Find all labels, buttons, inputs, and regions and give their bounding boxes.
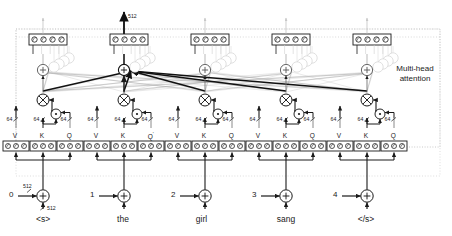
value-projection-label: V xyxy=(13,132,17,139)
position-index-label: 2 xyxy=(171,190,175,199)
output-dim-label: 512 xyxy=(128,13,137,19)
dot-product-glyph xyxy=(379,113,381,115)
head-dim-label: 64 xyxy=(385,116,391,122)
head-dim-label: 64 xyxy=(61,116,67,122)
attention-label: attention xyxy=(400,74,431,83)
multi-head-label: Multi-head xyxy=(396,64,433,73)
dot-product-glyph xyxy=(217,113,219,115)
head-dim-label: 64 xyxy=(169,116,175,122)
attention-weight-wire xyxy=(211,100,214,111)
extra-head-concat-node xyxy=(49,62,59,72)
value-projection-label: V xyxy=(256,132,260,139)
position-index-label: 4 xyxy=(333,190,337,199)
key-projection-label: K xyxy=(364,132,368,139)
token-label: <s> xyxy=(36,214,50,224)
head-dim-label: 64 xyxy=(331,116,337,122)
token-label: the xyxy=(117,214,129,224)
value-projection-label: V xyxy=(175,132,179,139)
attention-region-outline xyxy=(16,29,440,147)
attention-weight-wire xyxy=(49,100,52,111)
dot-product-glyph xyxy=(55,113,57,115)
head-dim-label: 64 xyxy=(115,116,121,122)
head-dim-label: 64 xyxy=(358,116,364,122)
query-projection-label: Q xyxy=(229,132,234,139)
position-index-label: 0 xyxy=(9,190,13,199)
head-dim-label: 64 xyxy=(277,116,283,122)
head-dim-label: 64 xyxy=(34,116,40,122)
attention-weight-wire xyxy=(130,100,133,111)
multi-head-attention-annotation: Multi-head attention xyxy=(382,64,448,84)
key-projection-label: K xyxy=(40,132,44,139)
head-dim-label: 64 xyxy=(223,116,229,122)
key-projection-label: K xyxy=(283,132,287,139)
value-projection-label: V xyxy=(337,132,341,139)
position-index-label: 1 xyxy=(90,190,94,199)
head-dim-label: 64 xyxy=(250,116,256,122)
query-projection-label: Q' xyxy=(148,132,154,140)
query-projection-label: Q xyxy=(310,132,315,139)
head-dim-label: 64 xyxy=(88,116,94,122)
position-dim-tick xyxy=(27,189,31,193)
dot-product-glyph xyxy=(136,113,138,115)
key-projection-label: K xyxy=(121,132,125,139)
head-dim-label: 64 xyxy=(7,116,13,122)
head-dim-label: 64 xyxy=(304,116,310,122)
attention-diagram: VKQ6464640<s>512512512VKQ'6464641theVKQ6… xyxy=(0,0,452,236)
key-projection-label: K xyxy=(202,132,206,139)
token-label: sang xyxy=(277,214,295,224)
dot-product-glyph xyxy=(298,113,300,115)
attention-weight-wire xyxy=(373,100,376,111)
query-projection-label: Q xyxy=(67,132,72,139)
embedding-dim-label: 512 xyxy=(47,205,56,211)
position-index-label: 3 xyxy=(252,190,256,199)
extra-head-concat-node xyxy=(211,62,221,72)
extra-head-concat-node xyxy=(292,62,302,72)
position-dim-label: 512 xyxy=(23,183,32,189)
token-label: </s> xyxy=(358,214,375,224)
attention-weight-wire xyxy=(292,100,295,111)
token-label: girl xyxy=(196,214,207,224)
extra-head-concat-node xyxy=(130,62,140,72)
head-dim-label: 64 xyxy=(142,116,148,122)
value-projection-label: V xyxy=(94,132,98,139)
query-projection-label: Q xyxy=(391,132,396,139)
head-dim-label: 64 xyxy=(196,116,202,122)
